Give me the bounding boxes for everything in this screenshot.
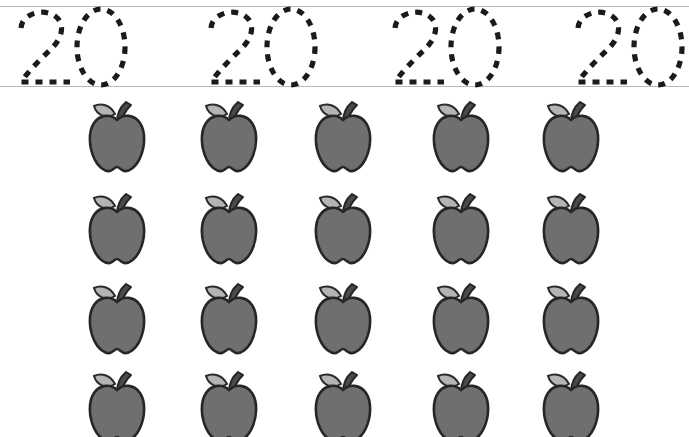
trace-number-group-1[interactable]: 20 [8,6,128,87]
apple-icon [310,92,376,178]
apple-icon [310,274,376,360]
apple-icon [196,92,262,178]
worksheet-page: 20 20 20 [0,0,689,437]
apple-counting-grid [0,92,689,437]
trace-digit-0[interactable] [634,9,682,85]
apple-item[interactable] [538,274,604,360]
apple-icon [428,274,494,360]
trace-number-group-4[interactable]: 20 [565,6,685,87]
apple-icon [428,92,494,178]
apple-item[interactable] [310,274,376,360]
apple-item[interactable] [310,184,376,270]
trace-number-group-3[interactable]: 20 [382,6,502,87]
trace-digit-0[interactable] [451,9,499,85]
apple-item[interactable] [310,362,376,437]
apple-item[interactable] [428,274,494,360]
apple-icon [196,362,262,437]
apple-icon [84,362,150,437]
apple-item[interactable] [196,362,262,437]
apple-icon [538,362,604,437]
apple-icon [428,362,494,437]
apple-icon [310,184,376,270]
apple-item[interactable] [84,184,150,270]
trace-digit-2[interactable] [21,12,70,82]
trace-digit-2[interactable] [578,12,627,82]
apple-item[interactable] [538,92,604,178]
apple-icon [310,362,376,437]
apple-item[interactable] [538,184,604,270]
apple-item[interactable] [196,274,262,360]
apple-icon [538,274,604,360]
apple-row [0,274,689,360]
apple-icon [84,92,150,178]
trace-digit-2[interactable] [395,12,444,82]
apple-icon [196,274,262,360]
apple-item[interactable] [538,362,604,437]
trace-digit-0[interactable] [77,9,125,85]
apple-row [0,362,689,437]
apple-item[interactable] [310,92,376,178]
apple-item[interactable] [84,92,150,178]
apple-icon [538,92,604,178]
apple-item[interactable] [428,92,494,178]
apple-item[interactable] [196,92,262,178]
apple-item[interactable] [428,362,494,437]
trace-digit-0[interactable] [267,9,315,85]
apple-item[interactable] [428,184,494,270]
apple-item[interactable] [84,274,150,360]
number-tracing-row: 20 20 20 [0,0,689,92]
apple-icon [538,184,604,270]
trace-digit-2[interactable] [211,12,260,82]
apple-icon [428,184,494,270]
trace-number-group-2[interactable]: 20 [198,6,318,87]
apple-item[interactable] [196,184,262,270]
apple-item[interactable] [84,362,150,437]
apple-row [0,184,689,270]
apple-icon [84,274,150,360]
apple-icon [196,184,262,270]
apple-row [0,92,689,178]
apple-icon [84,184,150,270]
